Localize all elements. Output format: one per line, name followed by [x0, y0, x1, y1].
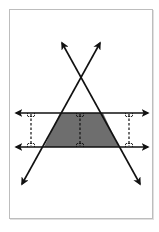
shaded-trapezoid — [44, 113, 119, 147]
perpendicular-segment — [126, 113, 133, 147]
parallel-lines-trapezoid-diagram — [0, 0, 159, 232]
perpendicular-segment — [28, 113, 35, 147]
